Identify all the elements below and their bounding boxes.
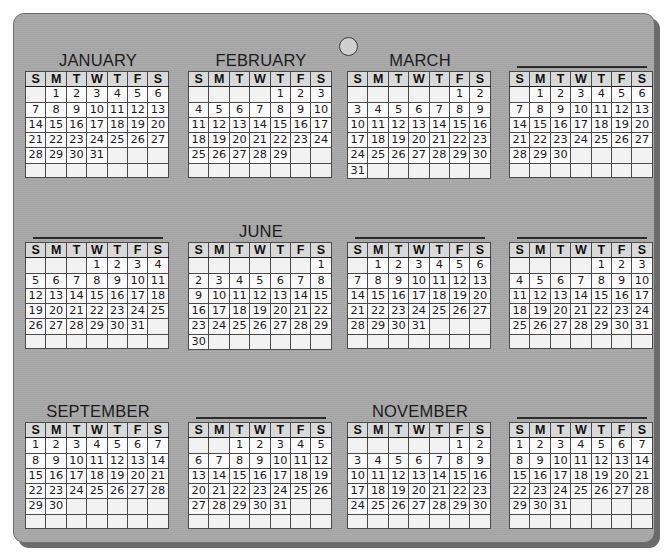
day-cell[interactable]: 9 xyxy=(530,453,550,468)
day-cell[interactable]: 31 xyxy=(270,499,290,514)
day-cell[interactable]: 9 xyxy=(250,453,270,468)
day-cell[interactable]: 10 xyxy=(348,117,368,132)
day-cell[interactable]: 5 xyxy=(449,258,469,273)
day-cell[interactable]: 30 xyxy=(107,319,127,334)
day-cell[interactable]: 21 xyxy=(66,304,86,319)
day-cell[interactable]: 19 xyxy=(127,117,147,132)
day-cell[interactable]: 11 xyxy=(189,117,209,132)
day-cell[interactable]: 30 xyxy=(388,319,408,334)
day-cell[interactable]: 29 xyxy=(591,319,611,334)
day-cell[interactable]: 3 xyxy=(550,438,570,453)
day-cell[interactable]: 23 xyxy=(46,484,66,499)
day-cell[interactable]: 29 xyxy=(368,319,388,334)
day-cell[interactable]: 15 xyxy=(270,117,290,132)
day-cell[interactable]: 26 xyxy=(311,484,331,499)
day-cell[interactable]: 21 xyxy=(429,133,449,148)
day-cell[interactable]: 9 xyxy=(46,453,66,468)
day-cell[interactable]: 9 xyxy=(66,102,86,117)
day-cell[interactable]: 22 xyxy=(368,304,388,319)
day-cell[interactable]: 13 xyxy=(46,288,66,303)
day-cell[interactable]: 5 xyxy=(311,438,331,453)
day-cell[interactable]: 14 xyxy=(348,288,368,303)
day-cell[interactable]: 11 xyxy=(290,453,310,468)
day-cell[interactable]: 4 xyxy=(591,87,611,102)
day-cell[interactable]: 1 xyxy=(449,87,469,102)
day-cell[interactable]: 7 xyxy=(290,273,310,288)
day-cell[interactable]: 4 xyxy=(87,438,107,453)
day-cell[interactable]: 27 xyxy=(632,133,652,148)
day-cell[interactable]: 12 xyxy=(127,102,147,117)
day-cell[interactable]: 30 xyxy=(530,499,550,514)
day-cell[interactable]: 12 xyxy=(530,288,550,303)
day-cell[interactable]: 6 xyxy=(611,438,631,453)
day-cell[interactable]: 25 xyxy=(368,499,388,514)
day-cell[interactable]: 26 xyxy=(388,148,408,163)
day-cell[interactable]: 27 xyxy=(127,484,147,499)
day-cell[interactable]: 31 xyxy=(550,499,570,514)
day-cell[interactable]: 22 xyxy=(46,133,66,148)
day-cell[interactable]: 22 xyxy=(229,484,249,499)
day-cell[interactable]: 23 xyxy=(107,304,127,319)
day-cell[interactable]: 21 xyxy=(209,484,229,499)
day-cell[interactable]: 16 xyxy=(290,117,310,132)
day-cell[interactable]: 15 xyxy=(368,288,388,303)
day-cell[interactable]: 20 xyxy=(550,304,570,319)
day-cell[interactable]: 21 xyxy=(290,304,310,319)
day-cell[interactable]: 28 xyxy=(571,319,591,334)
day-cell[interactable]: 25 xyxy=(510,319,530,334)
day-cell[interactable]: 1 xyxy=(270,87,290,102)
day-cell[interactable]: 11 xyxy=(368,468,388,483)
day-cell[interactable]: 14 xyxy=(510,117,530,132)
day-cell[interactable]: 20 xyxy=(409,133,429,148)
day-cell[interactable]: 7 xyxy=(250,102,270,117)
day-cell[interactable]: 23 xyxy=(530,484,550,499)
day-cell[interactable]: 22 xyxy=(530,133,550,148)
day-cell[interactable]: 5 xyxy=(591,438,611,453)
day-cell[interactable]: 13 xyxy=(470,273,490,288)
day-cell[interactable]: 11 xyxy=(87,453,107,468)
day-cell[interactable]: 29 xyxy=(449,148,469,163)
day-cell[interactable]: 15 xyxy=(46,117,66,132)
day-cell[interactable]: 15 xyxy=(449,468,469,483)
day-cell[interactable]: 23 xyxy=(250,484,270,499)
day-cell[interactable]: 11 xyxy=(368,117,388,132)
day-cell[interactable]: 15 xyxy=(449,117,469,132)
day-cell[interactable]: 17 xyxy=(66,468,86,483)
day-cell[interactable]: 8 xyxy=(510,453,530,468)
day-cell[interactable]: 19 xyxy=(449,288,469,303)
day-cell[interactable]: 15 xyxy=(229,468,249,483)
day-cell[interactable]: 24 xyxy=(311,133,331,148)
day-cell[interactable]: 4 xyxy=(429,258,449,273)
day-cell[interactable]: 11 xyxy=(571,453,591,468)
day-cell[interactable]: 18 xyxy=(87,468,107,483)
day-cell[interactable]: 1 xyxy=(449,438,469,453)
day-cell[interactable]: 20 xyxy=(229,133,249,148)
day-cell[interactable]: 21 xyxy=(429,484,449,499)
day-cell[interactable]: 8 xyxy=(449,453,469,468)
day-cell[interactable]: 23 xyxy=(290,133,310,148)
day-cell[interactable]: 23 xyxy=(189,319,209,334)
day-cell[interactable]: 16 xyxy=(530,468,550,483)
day-cell[interactable]: 30 xyxy=(189,334,209,349)
day-cell[interactable]: 5 xyxy=(388,102,408,117)
day-cell[interactable]: 14 xyxy=(209,468,229,483)
day-cell[interactable]: 28 xyxy=(290,319,310,334)
day-cell[interactable]: 23 xyxy=(388,304,408,319)
day-cell[interactable]: 16 xyxy=(46,468,66,483)
day-cell[interactable]: 26 xyxy=(127,133,147,148)
day-cell[interactable]: 3 xyxy=(270,438,290,453)
day-cell[interactable]: 4 xyxy=(368,102,388,117)
day-cell[interactable]: 3 xyxy=(87,87,107,102)
day-cell[interactable]: 10 xyxy=(209,288,229,303)
day-cell[interactable]: 12 xyxy=(26,288,46,303)
day-cell[interactable]: 11 xyxy=(510,288,530,303)
day-cell[interactable]: 13 xyxy=(229,117,249,132)
day-cell[interactable]: 19 xyxy=(388,484,408,499)
day-cell[interactable]: 13 xyxy=(148,102,168,117)
day-cell[interactable]: 26 xyxy=(449,304,469,319)
day-cell[interactable]: 28 xyxy=(209,499,229,514)
day-cell[interactable]: 8 xyxy=(530,102,550,117)
day-cell[interactable]: 9 xyxy=(470,102,490,117)
day-cell[interactable]: 21 xyxy=(348,304,368,319)
day-cell[interactable]: 5 xyxy=(107,438,127,453)
